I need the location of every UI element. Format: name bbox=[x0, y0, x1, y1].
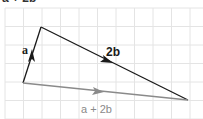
vector-sum-line bbox=[23, 83, 188, 100]
label-a: a bbox=[22, 43, 28, 57]
vector-diagram: a 2b a + 2b bbox=[0, 0, 203, 119]
label-sum: a + 2b bbox=[81, 103, 112, 115]
label-2b: 2b bbox=[106, 45, 120, 59]
